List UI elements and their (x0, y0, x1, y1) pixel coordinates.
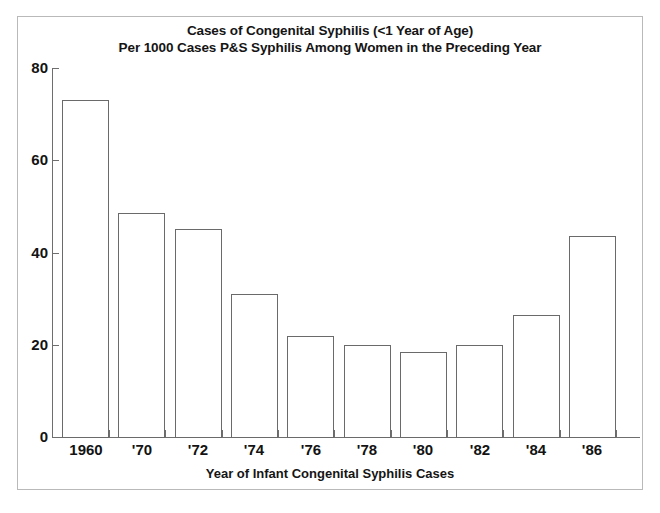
y-axis-tick-label: 80 (12, 59, 48, 76)
bar (344, 345, 391, 438)
x-axis-tick (560, 430, 561, 437)
bar (456, 345, 503, 438)
y-axis-tick (53, 253, 59, 254)
x-axis-tick (334, 430, 335, 437)
x-axis-tick (616, 430, 617, 437)
x-axis-tick (165, 430, 166, 437)
y-axis-tick-label: 20 (12, 336, 48, 353)
y-axis-tick-label: 60 (12, 151, 48, 168)
y-axis-tick (53, 437, 59, 438)
bar (175, 229, 222, 438)
y-axis-tick-label: 40 (12, 244, 48, 261)
x-axis-tick (447, 430, 448, 437)
chart-figure: Cases of Congenital Syphilis (<1 Year of… (0, 0, 660, 513)
bar (118, 213, 165, 438)
bar (400, 352, 447, 438)
y-axis-tick (53, 345, 59, 346)
x-axis-tick (503, 430, 504, 437)
chart-title-line-1: Cases of Congenital Syphilis (<1 Year of… (17, 22, 643, 39)
bar (231, 294, 278, 438)
bar (513, 315, 560, 438)
bar (287, 336, 334, 438)
y-axis-tick (53, 160, 59, 161)
x-axis-title: Year of Infant Congenital Syphilis Cases (17, 466, 643, 481)
x-axis-tick (222, 430, 223, 437)
x-axis-tick-label: '86 (552, 441, 632, 458)
y-axis-tick (53, 68, 59, 69)
chart-title-line-2: Per 1000 Cases P&S Syphilis Among Women … (17, 39, 643, 56)
bar (62, 100, 109, 438)
bar (569, 236, 616, 438)
y-axis-tick-label: 0 (12, 428, 48, 445)
x-axis-tick (278, 430, 279, 437)
x-axis-tick (391, 430, 392, 437)
chart-title: Cases of Congenital Syphilis (<1 Year of… (17, 22, 643, 56)
x-axis-tick (109, 430, 110, 437)
